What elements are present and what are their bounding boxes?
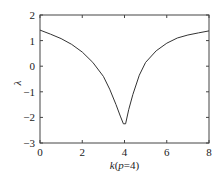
y-tick-label: 2	[30, 9, 36, 21]
y-axis-label: λ	[11, 80, 23, 86]
lambda-curve	[40, 30, 209, 124]
y-tick-label: −1	[23, 86, 35, 98]
y-tick-labels: 210−1−2−3	[23, 9, 35, 149]
y-tick-label: 0	[30, 60, 36, 72]
x-tick-label: 4	[122, 146, 128, 158]
x-tick-label: 8	[206, 146, 212, 158]
x-tick-label: 6	[164, 146, 170, 158]
x-tick-label: 2	[80, 146, 86, 158]
x-tick-labels: 02468	[37, 146, 212, 158]
y-tick-label: −2	[23, 111, 35, 123]
y-tick-label: −3	[23, 137, 35, 149]
x-axis-label: k(p=4)	[110, 159, 140, 172]
line-chart: 210−1−2−3 02468 λ k(p=4)	[0, 0, 220, 182]
y-tick-label: 1	[30, 35, 36, 47]
x-tick-label: 0	[37, 146, 43, 158]
